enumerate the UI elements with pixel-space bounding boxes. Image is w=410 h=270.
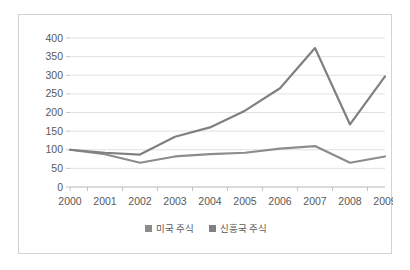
x-tick-label: 2005 [233,195,257,207]
legend-label-0: 미국 주식 [156,221,195,235]
plot-area: 050100150200250300350400 200020012002200… [19,15,393,255]
x-tick-label: 2001 [93,195,117,207]
series-line-1 [70,48,385,155]
line-chart: 050100150200250300350400 200020012002200… [19,15,393,255]
y-tick-label: 400 [45,32,63,44]
x-tickmarks [70,187,368,191]
y-tick-label: 100 [45,143,63,155]
y-tick-label: 200 [45,106,63,118]
x-tick-label: 2008 [338,195,362,207]
y-tick-label: 300 [45,69,63,81]
legend-item-1[interactable]: 신흥국 주식 [209,221,268,235]
chart-legend: 미국 주식 신흥국 주식 [19,221,393,235]
y-tick-label: 150 [45,125,63,137]
x-tick-label: 2009 [373,195,393,207]
y-tick-label: 250 [45,87,63,99]
x-tick-label: 2000 [58,195,82,207]
y-tick-label: 0 [57,181,63,193]
y-tick-label: 50 [51,162,63,174]
gridlines [66,38,385,187]
y-tick-label: 350 [45,50,63,62]
x-tick-label: 2004 [198,195,222,207]
x-tick-label: 2003 [163,195,187,207]
x-tick-label: 2002 [128,195,152,207]
legend-label-1: 신흥국 주식 [220,221,268,235]
y-axis-tick-labels: 050100150200250300350400 [45,32,63,193]
chart-frame: 050100150200250300350400 200020012002200… [18,14,392,254]
x-axis-tick-labels: 2000200120022003200420052006200720082009 [58,195,393,207]
legend-swatch-icon-0 [145,225,152,232]
x-tick-label: 2006 [268,195,292,207]
series-lines [70,48,385,163]
legend-item-0[interactable]: 미국 주식 [145,221,195,235]
x-tick-label: 2007 [303,195,327,207]
legend-swatch-icon-1 [209,225,216,232]
